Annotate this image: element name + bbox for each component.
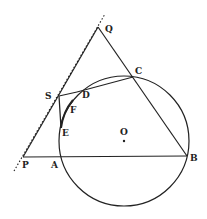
segment-sd bbox=[59, 92, 77, 96]
label-a: A bbox=[50, 160, 59, 170]
label-e: E bbox=[62, 128, 69, 138]
label-s: S bbox=[45, 91, 52, 101]
label-q: Q bbox=[105, 24, 113, 34]
label-c: C bbox=[135, 66, 142, 76]
label-o: O bbox=[120, 127, 128, 137]
center-dot bbox=[123, 140, 125, 142]
label-f: F bbox=[70, 105, 77, 115]
segment-pb bbox=[23, 156, 187, 157]
label-b: B bbox=[190, 153, 198, 163]
segment-se bbox=[59, 96, 61, 128]
label-p: P bbox=[22, 160, 29, 170]
segment-qb bbox=[98, 27, 187, 156]
geometry-diagram: Q C S D F E P A B O bbox=[0, 0, 207, 219]
label-d: D bbox=[82, 90, 90, 100]
